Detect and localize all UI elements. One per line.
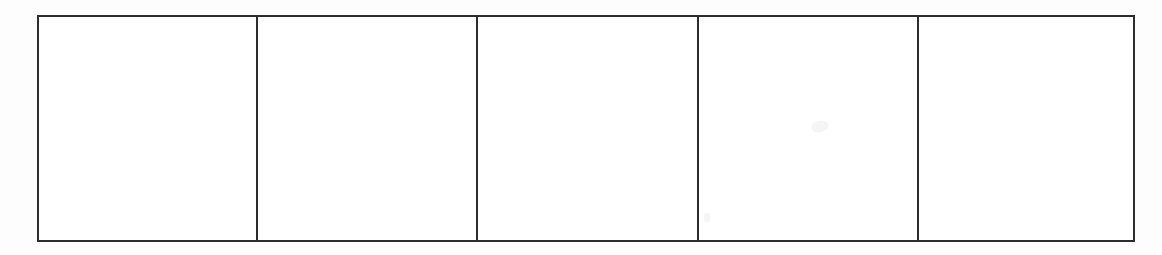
grid-cell-4-text	[699, 17, 917, 240]
grid-cell-4[interactable]	[699, 17, 919, 240]
grid-cell-2-text	[258, 17, 476, 240]
grid-cell-3-text	[478, 17, 697, 240]
grid-cell-3[interactable]	[478, 17, 699, 240]
grid-cell-1-text	[39, 17, 256, 240]
grid-cell-5[interactable]	[919, 17, 1132, 240]
blank-grid-table	[37, 15, 1135, 242]
grid-cell-5-text	[919, 17, 1132, 240]
document-page	[0, 0, 1162, 255]
grid-cell-1[interactable]	[39, 17, 258, 240]
grid-cell-2[interactable]	[258, 17, 478, 240]
